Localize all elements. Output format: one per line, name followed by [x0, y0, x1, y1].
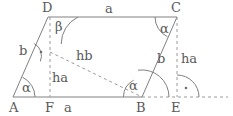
angle-label-alpha-at-B: α	[129, 79, 138, 92]
vertex-label-C: C	[171, 1, 181, 14]
arc-right-angle-at-E	[177, 75, 199, 97]
height-label-ha-right: ha	[181, 52, 197, 65]
angle-label-beta-at-D: β	[55, 20, 63, 33]
side-label-a-top: a	[105, 2, 113, 15]
height-label-hb: hb	[76, 49, 93, 62]
side-label-b-right: b	[157, 52, 165, 65]
vertex-label-A: A	[9, 101, 18, 114]
vertex-label-B: B	[136, 101, 146, 114]
diagram-canvas	[0, 0, 233, 116]
vertex-label-E: E	[171, 101, 181, 114]
angle-label-alpha-at-A: α	[22, 81, 31, 94]
height-label-ha-left: ha	[52, 71, 68, 84]
geometry-diagram: A B C D F E a a b b ha ha hb α β α α	[0, 0, 233, 116]
vertex-label-F: F	[45, 101, 54, 114]
angle-label-alpha-at-C: α	[160, 22, 169, 35]
arc-beta-at-D	[61, 17, 78, 44]
side-label-b-left: b	[19, 44, 27, 57]
right-angle-dot-on-AD	[40, 51, 43, 54]
right-angle-dot-at-E	[185, 87, 188, 90]
vertex-label-D: D	[42, 1, 52, 14]
arc-alpha-at-B-outer	[138, 70, 169, 97]
side-label-a-bottom: a	[64, 101, 72, 114]
